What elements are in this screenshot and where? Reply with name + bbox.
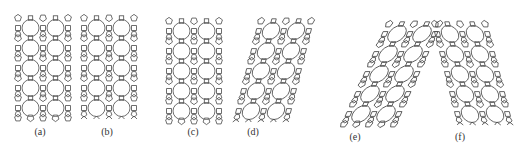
panel-e	[340, 20, 398, 124]
lattice-diagram	[14, 14, 72, 118]
lattice-diagram	[430, 20, 488, 124]
lattice-diagram	[80, 14, 138, 118]
panel-label-f: (f)	[445, 131, 475, 142]
panel-c	[165, 17, 223, 121]
panel-label-a: (a)	[25, 126, 55, 137]
panel-label-e: (e)	[340, 131, 370, 142]
panel-label-b: (b)	[92, 126, 122, 137]
panel-label-d: (d)	[238, 126, 268, 137]
panel-label-c: (c)	[178, 126, 208, 137]
lattice-diagram	[232, 17, 290, 121]
lattice-diagram	[340, 20, 398, 124]
lattice-diagram	[165, 17, 223, 121]
panel-a	[14, 14, 72, 118]
panel-f	[430, 20, 488, 124]
panel-b	[80, 14, 138, 118]
panel-d	[232, 17, 290, 121]
